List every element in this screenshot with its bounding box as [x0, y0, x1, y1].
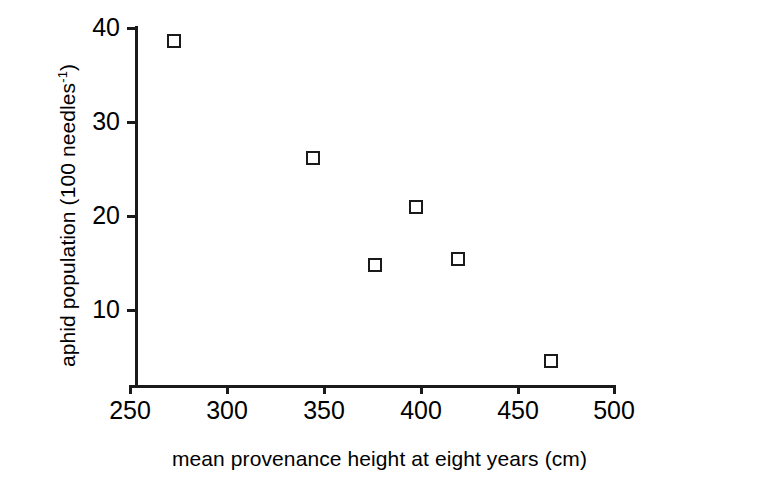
- data-point-3: [368, 258, 382, 272]
- data-point-4: [409, 200, 423, 214]
- data-point-5: [451, 252, 465, 266]
- data-point-6: [544, 354, 558, 368]
- data-point-2: [306, 151, 320, 165]
- x-axis-title: mean provenance height at eight years (c…: [0, 448, 759, 469]
- scatter-chart-figure: aphid population (100 needles-1) 40 30 2…: [0, 0, 759, 497]
- data-point-1: [167, 34, 181, 48]
- plot-area: [0, 0, 759, 497]
